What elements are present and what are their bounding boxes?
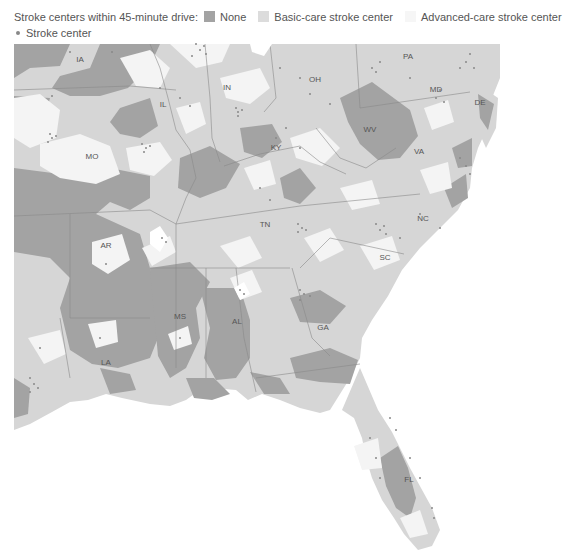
state-label-mo: MO <box>86 152 99 161</box>
stroke-center-dot-icon <box>16 31 20 35</box>
state-label-ar: AR <box>100 241 111 250</box>
state-label-al: AL <box>232 317 242 326</box>
legend-item-advanced: Advanced-care stroke center <box>399 10 562 24</box>
swatch-advanced-icon <box>405 11 416 22</box>
legend-label-none: None <box>220 10 246 24</box>
state-label-tn: TN <box>260 220 271 229</box>
legend-item-none: None <box>198 10 246 24</box>
state-label-pa: PA <box>403 52 414 61</box>
state-label-il: IL <box>160 100 167 109</box>
state-label-ky: KY <box>271 143 282 152</box>
state-label-md: MD <box>430 85 443 94</box>
state-label-wv: WV <box>364 125 378 134</box>
legend-label-basic: Basic-care stroke center <box>274 10 393 24</box>
state-label-de: DE <box>474 98 485 107</box>
legend-row-coverage: Stroke centers within 45-minute drive: N… <box>14 9 567 24</box>
state-label-ms: MS <box>174 312 186 321</box>
swatch-basic-icon <box>258 11 269 22</box>
state-label-in: IN <box>223 83 231 92</box>
legend-label-advanced: Advanced-care stroke center <box>421 10 562 24</box>
coverage-map: IA IL IN OH PA MD DE WV VA KY MO TN NC S… <box>0 38 514 555</box>
legend-item-basic: Basic-care stroke center <box>252 10 393 24</box>
state-label-nc: NC <box>417 214 429 223</box>
state-label-sc: SC <box>379 253 390 262</box>
state-label-va: VA <box>414 147 425 156</box>
state-label-ia: IA <box>76 55 84 64</box>
state-label-fl: FL <box>404 475 414 484</box>
state-label-la: LA <box>101 358 111 367</box>
state-label-oh: OH <box>309 75 321 84</box>
swatch-none-icon <box>204 11 215 22</box>
legend-title: Stroke centers within 45-minute drive: <box>14 10 198 24</box>
map-legend: Stroke centers within 45-minute drive: N… <box>14 9 567 40</box>
state-label-ga: GA <box>317 323 329 332</box>
